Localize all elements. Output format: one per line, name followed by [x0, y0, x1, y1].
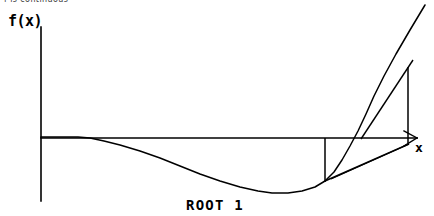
- axes-group: [41, 27, 417, 201]
- x-axis-arrow-upper: [404, 131, 417, 138]
- root-finding-figure: f is continuous f(x) x ROOT 1: [0, 0, 434, 216]
- secant-line-extension: [331, 144, 409, 179]
- plot-canvas: [0, 0, 434, 216]
- x-axis-label: x: [415, 140, 423, 155]
- y-axis-label: f(x): [8, 12, 42, 30]
- function-curve: [41, 5, 425, 193]
- root-1-label: ROOT 1: [186, 197, 244, 213]
